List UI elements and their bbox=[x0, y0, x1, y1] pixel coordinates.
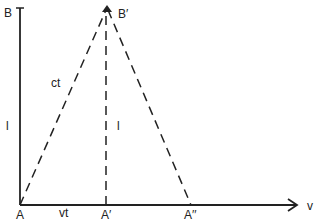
label-l-middle: l bbox=[117, 119, 120, 133]
label-a: A bbox=[16, 208, 24, 222]
dashed-line-bprime-adoubleprime bbox=[108, 10, 191, 205]
label-v: v bbox=[307, 199, 313, 213]
label-a-double-prime: A′′ bbox=[184, 208, 197, 222]
label-a-prime: A′ bbox=[101, 208, 112, 222]
label-l-left: l bbox=[6, 119, 9, 133]
apex-marker-icon bbox=[102, 5, 112, 12]
label-vt: vt bbox=[59, 206, 69, 220]
label-b-prime: B′ bbox=[118, 7, 129, 21]
label-b: B bbox=[4, 6, 12, 20]
dashed-line-a-bprime bbox=[20, 10, 106, 205]
label-ct: ct bbox=[51, 76, 61, 90]
diagram: B B′ ct l l A vt A′ A′′ v bbox=[0, 0, 317, 223]
